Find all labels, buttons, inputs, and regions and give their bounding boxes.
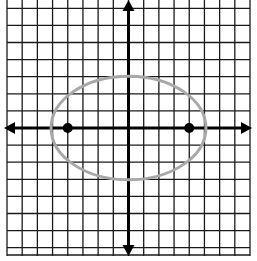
axes — [4, 0, 252, 256]
arrow-up-icon — [123, 0, 135, 11]
focus-point — [63, 123, 73, 133]
focus-point — [184, 123, 194, 133]
coordinate-graph — [0, 0, 257, 261]
arrow-left-icon — [4, 122, 15, 134]
